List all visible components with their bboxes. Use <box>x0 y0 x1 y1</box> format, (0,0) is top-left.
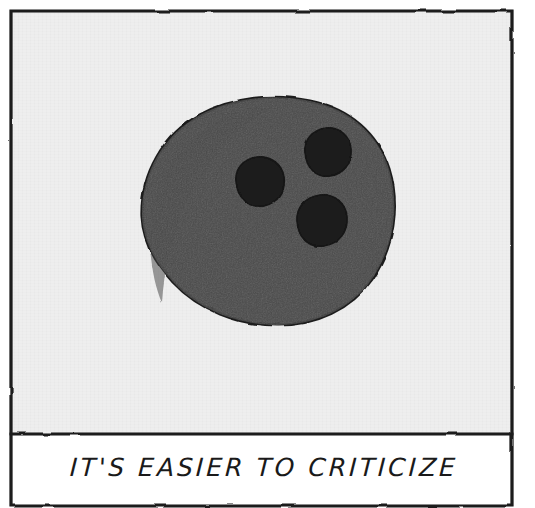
finger-hole-left <box>236 157 284 206</box>
caption-panel: IT'S EASIER TO CRITICIZE <box>10 434 512 501</box>
bowling-ball-drawing <box>10 11 512 434</box>
artwork-panel <box>10 11 512 434</box>
finger-hole-upper-right <box>305 128 351 176</box>
caption-text: IT'S EASIER TO CRITICIZE <box>10 434 512 501</box>
comic-panel-frame: IT'S EASIER TO CRITICIZE <box>10 11 512 501</box>
finger-hole-lower-right <box>297 195 347 246</box>
